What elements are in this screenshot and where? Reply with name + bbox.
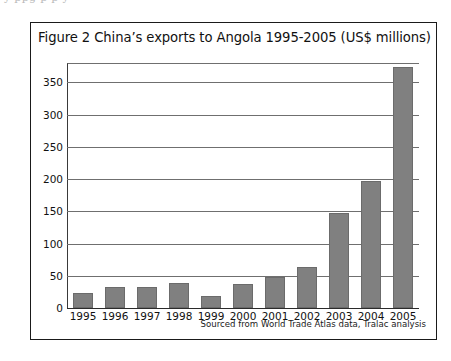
chart-title: Figure 2 China’s exports to Angola 1995-… [31, 30, 438, 45]
bar-1999 [201, 296, 221, 308]
bar-1996 [105, 287, 125, 308]
y-axis: 050100150200250300350 [33, 63, 63, 308]
bar-1995 [73, 293, 93, 308]
y-tick-label: 350 [43, 76, 63, 88]
axis-baseline [67, 308, 419, 309]
figure-page: y ppg p p y Figure 2 China’s exports to … [0, 0, 451, 361]
x-tick-label: 1995 [67, 310, 99, 322]
x-tick-label: 1998 [163, 310, 195, 322]
x-tick-label: 1997 [131, 310, 163, 322]
y-tick-label: 0 [56, 302, 63, 314]
clipped-text-bleed: y ppg p p y [0, 0, 451, 12]
y-tick-label: 250 [43, 141, 63, 153]
bar-2000 [233, 284, 253, 308]
bar-1997 [137, 287, 157, 308]
bar-2001 [265, 277, 285, 308]
plot-area: 050100150200250300350 199519961997199819… [67, 63, 419, 308]
bar-2003 [329, 213, 349, 308]
x-tick-label: 1996 [99, 310, 131, 322]
source-note: Sourced from World Trade Atlas data, Tra… [200, 319, 426, 329]
clipped-text: y ppg p p y [4, 0, 69, 4]
y-tick-label: 300 [43, 109, 63, 121]
bar-2002 [297, 267, 317, 308]
y-tick-label: 100 [43, 238, 63, 250]
y-tick-label: 50 [50, 270, 63, 282]
y-tick-label: 200 [43, 173, 63, 185]
bar-1998 [169, 283, 189, 308]
bar-2004 [361, 181, 381, 308]
bar-series [67, 63, 419, 308]
bar-2005 [393, 67, 413, 308]
figure-box: Figure 2 China’s exports to Angola 1995-… [30, 22, 437, 340]
y-tick-label: 150 [43, 205, 63, 217]
